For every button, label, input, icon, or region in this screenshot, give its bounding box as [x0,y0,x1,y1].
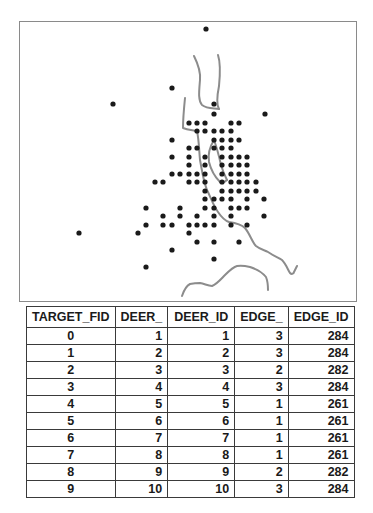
deer-point [169,171,174,176]
cell-edge-id: 284 [288,481,354,498]
cell-target-fid: 0 [27,328,116,345]
deer-point [228,179,233,184]
deer-point [253,188,258,193]
cell-edge-id: 284 [288,379,354,396]
column-header-deer-id[interactable]: DEER_ID [168,307,235,328]
deer-point [186,120,191,125]
cell-edge-id: 261 [288,447,354,464]
cell-target-fid: 8 [27,464,116,481]
deer-point [244,188,249,193]
deer-point [211,213,216,218]
deer-point [202,179,207,184]
table-row[interactable]: 8 9 9 2 282 [27,464,355,481]
deer-point [236,239,241,244]
deer-point [211,196,216,201]
deer-point [135,230,140,235]
table-row[interactable]: 0 1 1 3 284 [27,328,355,345]
table-row[interactable]: 5 6 6 1 261 [27,413,355,430]
deer-point [228,137,233,142]
attribute-table: TARGET_FID DEER_ DEER_ID EDGE_ EDGE_ID 0… [26,306,355,498]
deer-point [236,120,241,125]
cell-deer: 7 [115,430,168,447]
cell-edge-id: 261 [288,396,354,413]
deer-point [202,188,207,193]
table-body: 0 1 1 3 284 1 2 2 3 284 2 3 3 2 282 3 4 … [27,328,355,498]
cell-edge: 1 [235,430,288,447]
deer-point [186,154,191,159]
deer-point [261,196,266,201]
deer-point [202,120,207,125]
cell-edge: 1 [235,396,288,413]
deer-point [211,128,216,133]
deer-point [244,162,249,167]
cell-edge: 3 [235,379,288,396]
column-header-edge[interactable]: EDGE_ [235,307,288,328]
deer-point [228,213,233,218]
cell-edge: 1 [235,413,288,430]
column-header-edge-id[interactable]: EDGE_ID [288,307,354,328]
cell-deer: 4 [115,379,168,396]
cell-edge-id: 261 [288,430,354,447]
table-header-row: TARGET_FID DEER_ DEER_ID EDGE_ EDGE_ID [27,307,355,328]
deer-point [160,222,165,227]
table-row[interactable]: 4 5 5 1 261 [27,396,355,413]
deer-point [236,171,241,176]
deer-point [194,128,199,133]
deer-point [177,171,182,176]
deer-point [228,222,233,227]
deer-point [169,154,174,159]
cell-edge: 2 [235,464,288,481]
cell-edge-id: 284 [288,328,354,345]
deer-point [177,205,182,210]
deer-point [228,188,233,193]
deer-point [211,137,216,142]
table-row[interactable]: 2 3 3 2 282 [27,362,355,379]
cell-deer-id: 3 [168,362,235,379]
cell-edge: 3 [235,328,288,345]
table-row[interactable]: 3 4 4 3 284 [27,379,355,396]
deer-point [169,247,174,252]
river-line [182,266,268,296]
river-line [217,55,220,109]
cell-target-fid: 3 [27,379,116,396]
deer-point [219,137,224,142]
cell-deer: 9 [115,464,168,481]
table-row[interactable]: 7 8 8 1 261 [27,447,355,464]
cell-deer-id: 4 [168,379,235,396]
column-header-deer[interactable]: DEER_ [115,307,168,328]
deer-point [194,222,199,227]
deer-point [211,101,216,106]
cell-edge-id: 284 [288,345,354,362]
deer-point [236,162,241,167]
deer-point [219,171,224,176]
deer-point [228,196,233,201]
deer-point [219,196,224,201]
deer-point [219,188,224,193]
column-header-target-fid[interactable]: TARGET_FID [27,307,116,328]
river-line [194,56,219,109]
deer-point [236,179,241,184]
deer-point [228,171,233,176]
deer-point [160,179,165,184]
deer-point [228,205,233,210]
deer-point [110,101,115,106]
deer-point [211,205,216,210]
deer-point [202,222,207,227]
table-row[interactable]: 1 2 2 3 284 [27,345,355,362]
deer-point [219,154,224,159]
table-row[interactable]: 6 7 7 1 261 [27,430,355,447]
cell-target-fid: 2 [27,362,116,379]
deer-point [169,137,174,142]
deer-point [202,205,207,210]
cell-deer-id: 5 [168,396,235,413]
cell-target-fid: 7 [27,447,116,464]
cell-deer-id: 10 [168,481,235,498]
cell-deer-id: 2 [168,345,235,362]
deer-point [169,222,174,227]
deer-point [186,145,191,150]
cell-deer: 3 [115,362,168,379]
cell-deer: 10 [115,481,168,498]
cell-edge: 1 [235,447,288,464]
table-row[interactable]: 9 10 10 3 284 [27,481,355,498]
deer-point [219,128,224,133]
